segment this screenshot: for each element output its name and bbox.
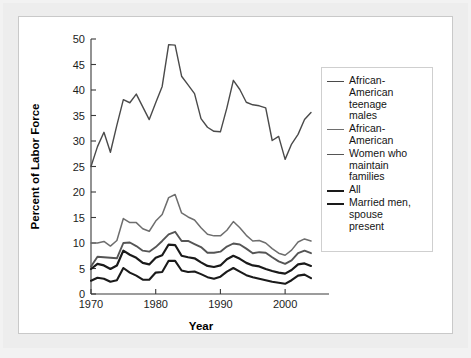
legend-entry: African- American teenage males — [327, 75, 428, 122]
y-tick-label: 35 — [73, 110, 85, 122]
x-tick-label: 1990 — [208, 298, 232, 310]
y-tick-label: 20 — [73, 186, 85, 198]
legend-entry: Married men, spouse present — [327, 197, 428, 232]
x-tick-label: 1980 — [143, 298, 167, 310]
legend-entry: Women who maintain families — [327, 148, 428, 183]
legend-swatch-bar — [327, 129, 344, 130]
figure-panel: 05101520253035404550 1970198019902000 Pe… — [18, 16, 453, 334]
x-tick-label: 1970 — [79, 298, 103, 310]
legend-swatch-bar — [327, 81, 344, 82]
y-tick-label: 40 — [73, 84, 85, 96]
y-tick-label: 25 — [73, 161, 85, 173]
y-tick-label: 45 — [73, 59, 85, 71]
figure-outer-frame: 05101520253035404550 1970198019902000 Pe… — [0, 0, 471, 358]
y-tick-label: 5 — [79, 263, 85, 275]
legend-entry-label: African- American — [349, 123, 393, 147]
series-lines — [91, 45, 311, 284]
legend-swatch-bar — [327, 190, 344, 192]
legend-line-swatch — [327, 203, 344, 205]
y-tick-label: 30 — [73, 135, 85, 147]
x-axis-ticks: 1970198019902000 — [79, 289, 298, 310]
legend-entry-label: African- American teenage males — [349, 75, 393, 122]
y-axis-ticks: 05101520253035404550 — [73, 33, 96, 300]
legend-entry: African- American — [327, 123, 428, 147]
legend-swatch-bar — [327, 154, 344, 155]
x-axis-title: Year — [189, 320, 214, 332]
series-line-0 — [91, 45, 311, 167]
legend-line-swatch — [327, 129, 344, 130]
y-axis-title: Percent of Labor Force — [29, 104, 41, 230]
legend-swatch-bar — [327, 203, 344, 205]
legend-entry-label: All — [349, 184, 361, 196]
y-tick-label: 15 — [73, 212, 85, 224]
x-tick-label: 2000 — [273, 298, 297, 310]
legend-entry-label: Married men, spouse present — [349, 197, 411, 232]
y-tick-label: 50 — [73, 33, 85, 45]
y-tick-label: 10 — [73, 237, 85, 249]
legend-line-swatch — [327, 154, 344, 155]
legend-line-swatch — [327, 81, 344, 82]
chart-legend: African- American teenage malesAfrican- … — [321, 67, 433, 252]
legend-line-swatch — [327, 190, 344, 192]
legend-entry: All — [327, 184, 428, 196]
legend-entry-label: Women who maintain families — [349, 148, 407, 183]
